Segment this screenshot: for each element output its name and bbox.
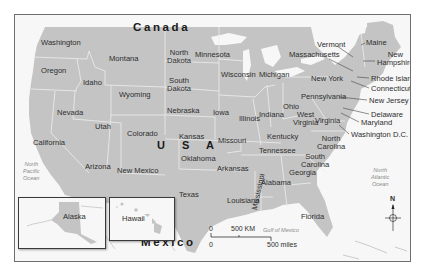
map-frame: Canada Mexico U S A Washington Oregon Ca… — [14, 14, 411, 262]
compass-rose-icon — [15, 15, 411, 262]
